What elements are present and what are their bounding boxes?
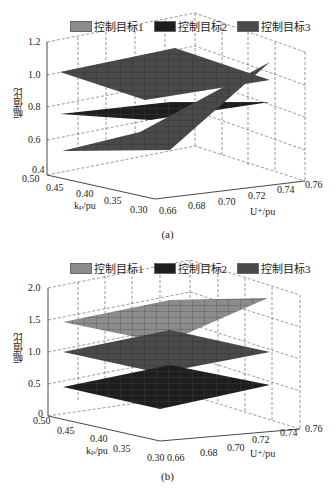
swatch-target2 [154, 21, 176, 32]
legend-a: 控制目标1 控制目标2 控制目标3 [70, 18, 311, 34]
surface-target1-a [60, 48, 270, 100]
z-tick: 1.0 [28, 346, 41, 357]
legend-item-target2: 控制目标2 [154, 260, 228, 276]
x-tick: 0.68 [200, 447, 218, 458]
swatch-target3 [237, 21, 259, 32]
y-tick: 0.35 [113, 443, 131, 454]
legend-item-target2: 控制目标2 [154, 18, 228, 34]
x-tick: 0.70 [227, 442, 245, 453]
legend-b: 控制目标1 控制目标2 控制目标3 [70, 260, 311, 276]
swatch-target1 [70, 263, 92, 274]
legend-item-target3: 控制目标3 [237, 18, 311, 34]
y-axis-label-b: kₚ/pu [86, 445, 108, 456]
y-tick: 0.35 [104, 195, 122, 206]
legend-item-target1: 控制目标1 [70, 260, 144, 276]
surface-target2-a [60, 102, 270, 120]
x-axis-label-b: U⁺/pu [250, 448, 275, 459]
swatch-target2 [154, 263, 176, 274]
z-tick: 2.0 [28, 282, 41, 293]
y-tick: 0.45 [46, 182, 64, 193]
y-tick: 0.30 [147, 452, 165, 463]
x-tick: 0.66 [159, 205, 177, 216]
z-tick: 1.5 [28, 314, 41, 325]
x-tick: 0.72 [248, 190, 266, 201]
x-tick: 0.74 [277, 184, 295, 195]
x-tick: 0.74 [280, 427, 298, 438]
x-axis-label-a: U⁺/pu [250, 206, 275, 217]
x-tick: 0.70 [218, 196, 236, 207]
x-tick: 0.66 [167, 452, 185, 463]
y-axis-label-a: kₚ/pu [74, 200, 96, 211]
legend-item-target3: 控制目标3 [237, 260, 311, 276]
caption-b: (b) [0, 470, 335, 482]
y-tick: 0.50 [22, 173, 40, 184]
y-tick: 0.30 [130, 204, 148, 215]
legend-item-target1: 控制目标1 [70, 18, 144, 34]
swatch-target3 [237, 263, 259, 274]
figure-a: 控制目标1 控制目标2 控制目标3 幅值比 1.2 1.0 0.8 0.6 0.… [0, 0, 335, 245]
z-axis-label-b: 幅值比 [11, 333, 26, 363]
z-tick: 0.6 [28, 134, 41, 145]
swatch-target1 [70, 21, 92, 32]
z-tick: 0.8 [28, 101, 41, 112]
x-tick: 0.76 [305, 423, 323, 434]
z-tick: 0.5 [28, 378, 41, 389]
x-tick: 0.76 [305, 179, 323, 190]
x-tick: 0.68 [188, 200, 206, 211]
z-axis-label-a: 幅值比 [11, 88, 26, 118]
z-tick: 1.2 [28, 36, 41, 47]
grid-lines-a [47, 13, 305, 181]
x-tick: 0.72 [252, 434, 270, 445]
y-tick: 0.45 [57, 425, 75, 436]
figure-b: 控制目标1 控制目标2 控制目标3 幅值比 2.0 1.5 1.0 0.5 0 … [0, 245, 335, 490]
caption-a: (a) [0, 228, 335, 240]
y-tick: 0.40 [90, 433, 108, 444]
y-tick: 0.50 [33, 415, 51, 426]
z-tick: 1.0 [28, 69, 41, 80]
y-tick: 0.40 [76, 188, 94, 199]
